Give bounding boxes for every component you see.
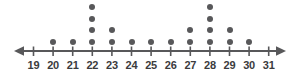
x-axis-tick-label: 21 — [67, 60, 79, 71]
data-dot — [227, 27, 233, 33]
x-axis-tick-label: 30 — [243, 60, 255, 71]
data-dot — [109, 27, 115, 33]
x-axis-tick-label: 25 — [145, 60, 157, 71]
data-dot — [207, 39, 213, 45]
data-dot — [129, 39, 135, 45]
data-dot — [168, 39, 174, 45]
data-dot — [187, 27, 193, 33]
x-axis-tick-label: 26 — [165, 60, 177, 71]
data-dot — [148, 39, 154, 45]
data-dot — [207, 16, 213, 22]
data-dot — [89, 16, 95, 22]
data-dot — [89, 39, 95, 45]
data-dot — [89, 27, 95, 33]
x-axis-tick-label: 29 — [224, 60, 236, 71]
data-dot — [109, 39, 115, 45]
data-dot — [207, 27, 213, 33]
x-axis-tick-label: 19 — [28, 60, 40, 71]
x-axis-tick-label: 24 — [126, 60, 138, 71]
x-axis-tick-label: 22 — [86, 60, 98, 71]
data-dot — [50, 39, 56, 45]
x-axis-tick-label: 20 — [47, 60, 59, 71]
x-axis-tick-label: 23 — [106, 60, 118, 71]
data-dot — [246, 39, 252, 45]
data-dot — [227, 39, 233, 45]
dot-plot-figure: 19202122232425262728293031 — [0, 0, 292, 78]
x-axis-tick-label: 27 — [184, 60, 196, 71]
data-dot — [207, 4, 213, 10]
data-dot — [187, 39, 193, 45]
x-axis-tick-label: 31 — [263, 60, 275, 71]
x-axis-tick-label: 28 — [204, 60, 216, 71]
data-dot — [70, 39, 76, 45]
data-dot — [89, 4, 95, 10]
